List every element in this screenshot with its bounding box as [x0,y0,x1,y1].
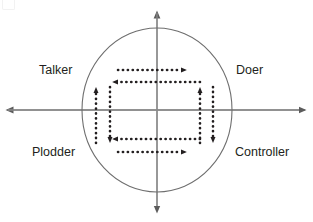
quadrant-label-controller: Controller [235,145,289,159]
axes-group [8,13,305,211]
flow-arrows-group [96,70,213,152]
quadrant-label-talker: Talker [39,63,72,77]
quadrant-label-doer: Doer [236,63,263,77]
diagram-canvas: Talker Doer Plodder Controller [0,0,313,222]
quadrant-label-plodder: Plodder [32,145,75,159]
quadrant-diagram: Talker Doer Plodder Controller [0,0,313,222]
